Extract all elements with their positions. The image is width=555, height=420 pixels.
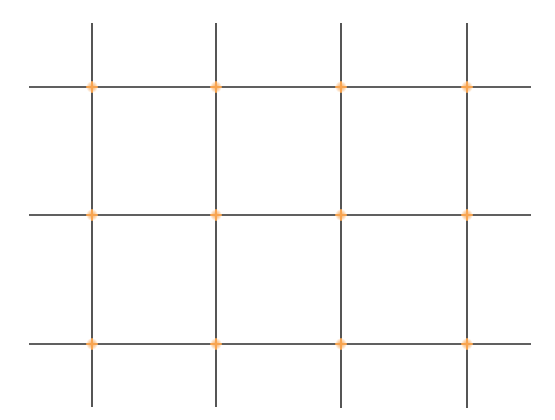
intersection-marker-icon (210, 209, 222, 221)
intersection-marker-icon (461, 81, 473, 93)
horizontal-grid-lines (29, 87, 531, 344)
intersection-marker-icon (461, 338, 473, 350)
intersection-marker-icon (335, 338, 347, 350)
intersection-marker-icon (210, 338, 222, 350)
grid-diagram (0, 0, 555, 420)
intersection-marker-icon (86, 81, 98, 93)
intersection-marker-icon (335, 209, 347, 221)
intersection-marker-icon (461, 209, 473, 221)
intersection-marker-icon (86, 209, 98, 221)
intersection-marker-icon (210, 81, 222, 93)
grid-lines-canvas (0, 0, 555, 420)
intersection-marker-icon (86, 338, 98, 350)
intersection-marker-icon (335, 81, 347, 93)
